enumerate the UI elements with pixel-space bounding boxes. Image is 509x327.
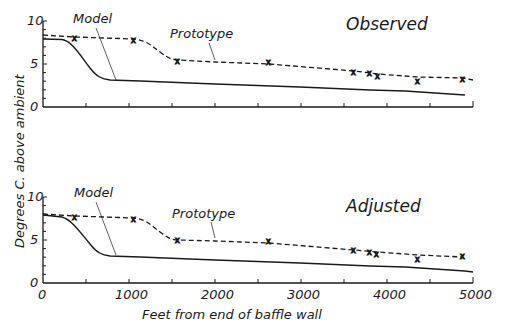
panel-adjusted: 10 5 0 0 1000 2000 3000 4000 5000 x x x … — [27, 185, 492, 302]
svg-text:x: x — [374, 250, 379, 259]
svg-text:x: x — [415, 77, 420, 86]
svg-text:x: x — [351, 68, 356, 77]
svg-text:3000: 3000 — [287, 287, 320, 302]
svg-text:x: x — [460, 75, 465, 84]
y-tick-label-5-bottom: 5 — [30, 232, 38, 247]
pointer-model-observed — [96, 28, 116, 80]
svg-text:x: x — [131, 36, 136, 45]
pointer-prototype-adjusted — [211, 222, 215, 238]
svg-text:x: x — [266, 58, 271, 67]
svg-text:x: x — [367, 69, 372, 78]
x-ticks-top — [86, 101, 473, 107]
svg-text:5000: 5000 — [459, 287, 492, 302]
model-curve-observed — [43, 39, 465, 95]
y-tick-label-5-top: 5 — [30, 56, 38, 71]
panel-title-observed: Observed — [346, 14, 428, 34]
label-model-adjusted: Model — [74, 185, 113, 200]
x-tick-labels: 0 1000 2000 3000 4000 5000 — [38, 287, 492, 302]
model-curve-adjusted — [43, 215, 473, 272]
y-tick-label-10-top: 10 — [27, 13, 44, 28]
label-model-observed: Model — [73, 11, 112, 26]
prototype-curve-adjusted — [43, 214, 463, 257]
svg-text:x: x — [351, 246, 356, 255]
pointer-model-adjusted — [96, 202, 116, 255]
pointer-prototype-observed — [209, 43, 215, 60]
svg-text:x: x — [367, 248, 372, 257]
y-axis-title: Degrees C. above ambient — [12, 73, 27, 248]
x-ticks-bottom — [86, 277, 473, 283]
svg-text:2000: 2000 — [201, 287, 234, 302]
y-tick-label-10-bottom: 10 — [27, 189, 44, 204]
panel-title-adjusted: Adjusted — [345, 196, 421, 216]
svg-text:x: x — [415, 255, 420, 264]
prototype-markers-observed: x x x x x x x x x — [72, 34, 465, 86]
svg-text:0: 0 — [38, 287, 46, 302]
x-axis-title: Feet from end of baffle wall — [142, 307, 322, 322]
label-prototype-adjusted: Prototype — [172, 206, 235, 221]
svg-text:x: x — [460, 252, 465, 261]
svg-text:x: x — [375, 72, 380, 81]
panel-observed: 10 5 0 x x x x x x x x x Model Prototype… — [27, 11, 473, 114]
svg-text:4000: 4000 — [373, 287, 406, 302]
label-prototype-observed: Prototype — [170, 26, 233, 41]
svg-text:x: x — [266, 237, 271, 246]
svg-text:x: x — [131, 215, 136, 224]
svg-text:x: x — [175, 236, 180, 245]
svg-text:x: x — [175, 57, 180, 66]
svg-text:x: x — [72, 34, 77, 43]
svg-text:x: x — [72, 213, 77, 222]
svg-text:1000: 1000 — [115, 287, 148, 302]
y-tick-label-0-top: 0 — [30, 99, 38, 114]
chart-figure: 10 5 0 x x x x x x x x x Model Prototype… — [0, 0, 509, 327]
